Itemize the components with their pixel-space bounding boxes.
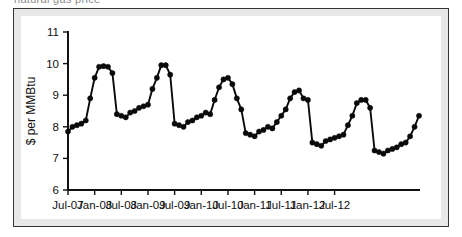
data-point (234, 96, 239, 101)
data-point (319, 143, 324, 148)
data-point (216, 85, 221, 90)
data-point (110, 70, 115, 75)
data-point (305, 97, 310, 102)
data-point (168, 72, 173, 77)
data-point (412, 124, 417, 129)
data-point (416, 113, 421, 118)
y-axis-title: $ per MMBtu (24, 77, 38, 146)
data-point (208, 112, 213, 117)
cropped-caption-text: natural gas price (14, 0, 444, 5)
data-point (363, 97, 368, 102)
data-point (270, 126, 275, 131)
data-point (368, 105, 373, 110)
data-point (296, 88, 301, 93)
data-point (345, 123, 350, 128)
data-point (350, 113, 355, 118)
data-point (105, 64, 110, 69)
data-point (283, 107, 288, 112)
data-point (274, 119, 279, 124)
data-point (225, 75, 230, 80)
data-point (252, 134, 257, 139)
data-point (403, 140, 408, 145)
y-tick-label: 6 (53, 184, 59, 196)
data-point (83, 118, 88, 123)
y-tick-label: 11 (47, 26, 59, 38)
data-point (212, 97, 217, 102)
cropped-caption-remnant: natural gas price (14, 0, 444, 7)
data-point (261, 127, 266, 132)
x-tick-label: Jul-12 (319, 199, 350, 211)
data-point (145, 102, 150, 107)
price-series-markers (65, 63, 421, 157)
data-point (65, 129, 70, 134)
data-point (132, 108, 137, 113)
data-point (154, 75, 159, 80)
y-axis-ticks: 67891011 (46, 26, 68, 196)
data-point (163, 63, 168, 68)
data-point (341, 132, 346, 137)
figure-frame: 67891011 Jul-07Jan-08Jul-08Jan-09Jul-09J… (13, 8, 449, 227)
data-point (394, 145, 399, 150)
data-point (88, 96, 93, 101)
data-point (239, 107, 244, 112)
y-tick-label: 7 (53, 152, 59, 164)
data-point (288, 96, 293, 101)
data-point (279, 113, 284, 118)
data-point (190, 118, 195, 123)
y-tick-label: 9 (53, 89, 59, 101)
data-point (79, 121, 84, 126)
data-point (381, 151, 386, 156)
data-point (230, 82, 235, 87)
data-point (354, 101, 359, 106)
data-point (408, 134, 413, 139)
data-point (150, 86, 155, 91)
data-point (123, 115, 128, 120)
figure-inner-card: 67891011 Jul-07Jan-08Jul-08Jan-09Jul-09J… (21, 16, 441, 219)
data-point (199, 113, 204, 118)
y-tick-label: 8 (53, 121, 59, 133)
data-point (92, 75, 97, 80)
data-point (181, 124, 186, 129)
y-tick-label: 10 (46, 58, 59, 70)
x-axis-ticks: Jul-07Jan-08Jul-08Jan-09Jul-09Jan-10Jul-… (52, 190, 350, 211)
line-chart: 67891011 Jul-07Jan-08Jul-08Jan-09Jul-09J… (21, 16, 443, 221)
